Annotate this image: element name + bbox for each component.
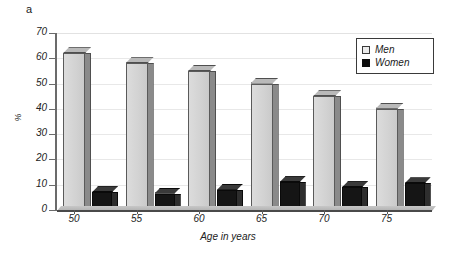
bar-side-face [398,109,404,210]
bar-men-75 [376,109,398,210]
chart-floor-front [57,210,432,212]
bar-front-face [251,84,273,210]
y-axis-tick [49,159,57,160]
y-axis-tick-label: 30 [21,128,47,138]
x-axis-tick-label: 60 [179,214,219,224]
chart-figure: a % 010203040506070 505560657075 Age in … [0,0,456,257]
y-axis-tick [49,210,57,211]
bar-front-face [188,71,210,210]
bar-men-70 [313,96,335,210]
x-axis-tick-label: 55 [117,214,157,224]
gridline [57,33,432,34]
bar-front-face [376,109,398,210]
y-axis-tick [49,185,57,186]
legend-label-women: Women [375,58,409,68]
legend-item-men[interactable]: Men [362,43,428,56]
bar-side-face [273,84,279,210]
bar-men-50 [63,53,85,210]
bar-side-face [85,53,91,210]
y-axis-tick-label: 40 [21,103,47,113]
y-axis-tick [49,109,57,110]
legend-item-women[interactable]: Women [362,56,428,69]
y-axis-tick [49,84,57,85]
y-axis-tick [49,134,57,135]
x-axis-tick-label: 50 [54,214,94,224]
gridline [57,84,432,85]
bar-men-60 [188,71,210,210]
y-axis-tick-label: 10 [21,179,47,189]
x-axis-tick-label: 70 [304,214,344,224]
y-axis-tick [49,33,57,34]
chart-floor [57,206,436,212]
x-axis-tick-label: 75 [367,214,407,224]
bar-side-face [210,71,216,210]
x-axis-title: Age in years [0,232,456,242]
y-axis-tick [49,58,57,59]
x-axis-tick-label: 65 [242,214,282,224]
bar-side-face [148,63,154,210]
legend-swatch-men-icon [362,46,370,54]
bar-men-55 [126,63,148,210]
y-axis-tick-label: 50 [21,78,47,88]
bar-front-face [313,96,335,210]
bar-men-65 [251,84,273,210]
bar-front-face [63,53,85,210]
legend-swatch-women-icon [362,59,370,67]
panel-label: a [26,4,32,15]
bar-front-face [126,63,148,210]
y-axis-tick-label: 60 [21,52,47,62]
y-axis-title: % [14,113,23,121]
y-axis-tick-label: 20 [21,153,47,163]
chart-legend: Men Women [356,38,434,74]
bar-side-face [335,96,341,210]
y-axis-tick-label: 70 [21,27,47,37]
legend-label-men: Men [375,45,394,55]
y-axis-tick-label: 0 [21,204,47,214]
